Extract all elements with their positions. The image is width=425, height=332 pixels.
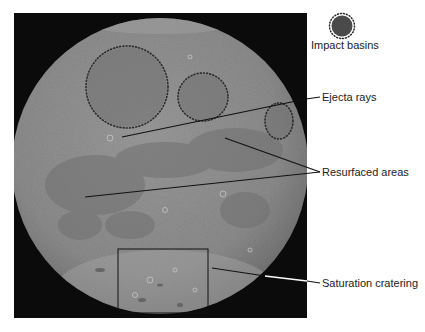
legend-label-impact-basins: Impact basins xyxy=(311,39,379,51)
label-resurfaced-areas: Resurfaced areas xyxy=(322,166,409,178)
label-saturation-cratering: Saturation cratering xyxy=(322,277,418,289)
label-ejecta-rays: Ejecta rays xyxy=(322,91,376,103)
impact-basin-legend-icon xyxy=(330,14,355,39)
